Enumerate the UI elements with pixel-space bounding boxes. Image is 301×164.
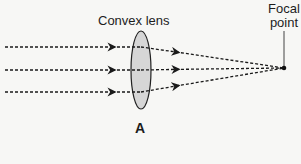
focal-point-label-line1: Focal <box>264 2 301 16</box>
refracted-rays <box>141 47 284 92</box>
middle-ray-refracted <box>141 69 176 70</box>
focal-point-label: Focal point <box>264 2 301 30</box>
focal-point-dot <box>282 66 287 71</box>
incoming-rays <box>5 47 141 92</box>
convex-lens-diagram: Convex lens Focal point A <box>0 0 301 164</box>
focal-point-label-line2: point <box>264 16 301 30</box>
figure-label: A <box>135 121 145 135</box>
lens-label: Convex lens <box>98 14 170 28</box>
